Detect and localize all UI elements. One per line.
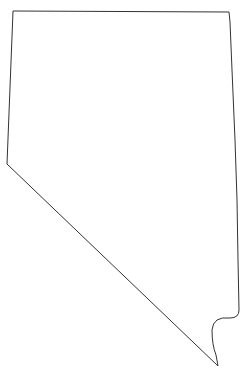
nevada-outline [7,11,239,366]
state-outline-map [0,0,241,374]
